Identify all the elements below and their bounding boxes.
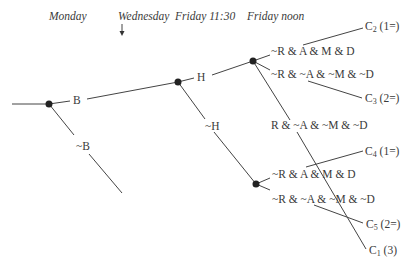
outcome-c1: C1 (3)	[369, 245, 397, 258]
outcome-c4: C4 (1=)	[365, 146, 399, 159]
b-line-b	[87, 82, 178, 99]
time-wednesday: Wednesday	[118, 11, 169, 23]
branch-label-not-b: ~B	[76, 141, 90, 153]
outcome-c3: C3 (2=)	[365, 93, 399, 106]
upper-good-to-c2	[303, 28, 363, 45]
outcome-c5: C5 (2=)	[366, 219, 400, 232]
time-friday-1130: Friday 11:30	[175, 11, 235, 23]
node-lower-friday	[253, 181, 260, 188]
branch-label-lower-good: ~R & A & M & D	[272, 169, 356, 181]
outcome-c2: C2 (1=)	[365, 21, 399, 34]
decision-tree-lines	[0, 0, 411, 269]
branch-label-not-h: ~H	[205, 121, 220, 133]
branch-label-lower-bad: ~R & ~A & ~M & ~D	[272, 194, 375, 206]
branch-label-upper-good: ~R & A & M & D	[271, 46, 355, 58]
time-friday-noon: Friday noon	[247, 11, 304, 23]
time-monday: Monday	[49, 11, 87, 23]
revealed-line-b	[297, 132, 366, 249]
h-line-b	[212, 61, 253, 75]
not-h-line-b	[214, 132, 256, 184]
upper-bad-to-c3	[308, 81, 362, 98]
wednesday-arrow-head	[120, 31, 125, 36]
not-b-line-b	[89, 154, 122, 193]
node-monday	[46, 101, 53, 108]
branch-label-revealed: R & ~A & ~M & ~D	[271, 120, 368, 132]
branch-label-h: H	[197, 72, 205, 84]
branch-label-upper-bad: ~R & ~A & ~M & ~D	[271, 69, 374, 81]
lower-bad-to-c5	[314, 205, 363, 223]
branch-label-b: B	[73, 95, 81, 107]
node-upper-friday	[250, 58, 257, 65]
not-b-line-a	[49, 104, 74, 135]
node-wednesday	[175, 79, 182, 86]
lower-good-to-c4	[306, 151, 363, 167]
not-h-line-a	[178, 82, 205, 119]
